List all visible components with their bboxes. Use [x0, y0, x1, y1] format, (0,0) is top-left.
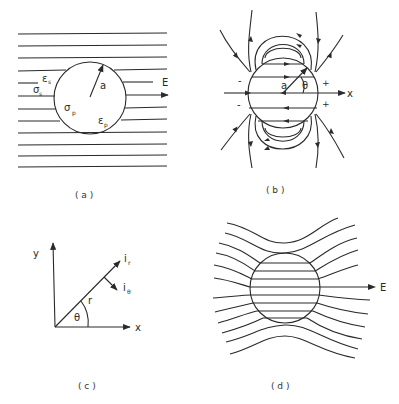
- angle-label: θ: [74, 312, 80, 323]
- caption-c: ( c ): [78, 381, 96, 391]
- x-axis-label: x: [135, 322, 141, 333]
- internal-field-lines: [250, 263, 320, 318]
- theta-unit-vector: [104, 277, 117, 290]
- minus-bottom: -: [237, 99, 241, 110]
- eps-s-sub: s: [48, 78, 51, 85]
- sigma-p-sub: p: [72, 109, 76, 117]
- external-field-lines: [213, 218, 376, 358]
- radius-label: a: [281, 80, 287, 91]
- angle-label: θ: [302, 80, 308, 91]
- unit-r-label: i: [124, 253, 127, 264]
- sigma-s-sub: s: [39, 90, 42, 97]
- plus-bottom: +: [322, 99, 330, 109]
- minus-top: -: [238, 75, 242, 86]
- plus-top: +: [322, 78, 330, 88]
- unit-theta-sub: θ: [127, 288, 131, 295]
- y-axis: [53, 243, 55, 327]
- figure: a E ε s σ s σ p ε p ( a ): [0, 0, 399, 404]
- y-axis-label: y: [33, 248, 39, 259]
- panel-a: a E ε s σ s σ p ε p ( a ): [18, 33, 168, 200]
- unit-theta-label: i: [123, 282, 126, 293]
- particle-circle: [54, 62, 126, 134]
- caption-b: ( b ): [266, 185, 284, 195]
- radius-label: a: [100, 80, 106, 91]
- caption-a: ( a ): [75, 190, 93, 200]
- radius-label: r: [88, 295, 93, 306]
- sigma-p-label: σ: [64, 102, 71, 113]
- uniform-field-lines: [18, 33, 168, 167]
- field-label: E: [162, 77, 168, 88]
- field-label: E: [380, 282, 386, 293]
- caption-d: ( d ): [271, 381, 289, 391]
- panel-b: a θ x - - + + ( b ): [220, 10, 353, 195]
- eps-s-label: ε: [42, 73, 47, 84]
- x-axis-label: x: [347, 88, 353, 99]
- eps-p-sub: p: [104, 121, 108, 129]
- eps-p-label: ε: [98, 115, 103, 126]
- panel-c: y x r θ i r i θ ( c ): [33, 243, 141, 391]
- panel-d: E ( d ): [213, 218, 386, 391]
- unit-r-sub: r: [128, 259, 131, 266]
